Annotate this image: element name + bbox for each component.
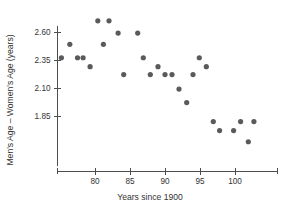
data-point (190, 72, 195, 77)
data-point (155, 64, 160, 69)
data-point (106, 18, 111, 23)
data-point (217, 128, 222, 133)
data-point (197, 55, 202, 60)
data-point (88, 64, 93, 69)
data-point (67, 42, 72, 47)
data-point (184, 100, 189, 105)
data-point (251, 119, 256, 124)
scatter-plot-figure: 80859095100 2.602.352.101.85 Years since… (0, 0, 285, 210)
data-point (135, 31, 140, 36)
data-point (101, 42, 106, 47)
x-axis-tick-label: 80 (90, 177, 100, 186)
data-point (211, 119, 216, 124)
data-point-group (59, 18, 257, 144)
y-axis: 2.602.352.101.85 (35, 26, 61, 166)
data-point (121, 72, 126, 77)
y-axis-tick-label: 1.85 (35, 112, 51, 121)
data-point (141, 55, 146, 60)
x-axis-tick-label: 95 (195, 177, 205, 186)
data-point (246, 139, 251, 144)
data-point (95, 18, 100, 23)
data-point (169, 72, 174, 77)
y-axis-tick-label: 2.10 (35, 84, 51, 93)
x-axis-tick-label: 100 (228, 177, 242, 186)
data-point (162, 72, 167, 77)
y-axis-tick-label: 2.35 (35, 56, 51, 65)
data-point (81, 55, 86, 60)
x-axis: 80859095100 (58, 168, 278, 187)
data-point (231, 128, 236, 133)
data-point (238, 119, 243, 124)
data-point (75, 55, 80, 60)
data-point (176, 87, 181, 92)
y-axis-title: Men's Age – Women's Age (years) (5, 34, 15, 165)
plot-canvas: 80859095100 2.602.352.101.85 Years since… (0, 0, 285, 210)
x-axis-tick-label: 90 (160, 177, 170, 186)
data-point (148, 72, 153, 77)
y-axis-tick-label: 2.60 (35, 28, 51, 37)
data-point (116, 31, 121, 36)
x-axis-tick-label: 85 (125, 177, 135, 186)
x-axis-title: Years since 1900 (117, 192, 183, 202)
data-point (204, 64, 209, 69)
